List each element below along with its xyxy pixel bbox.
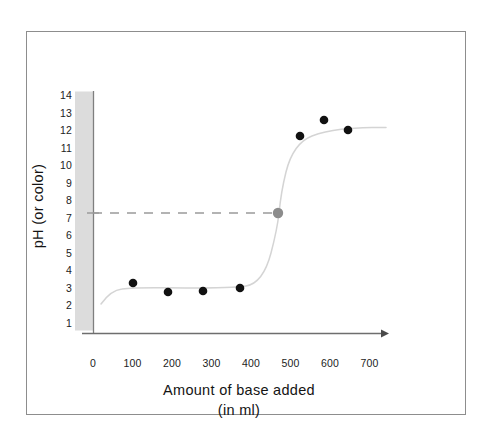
data-point [236,284,245,293]
data-point [199,287,208,296]
y-tick-label: 5 [50,247,72,259]
ph-scale-band [75,92,93,331]
y-axis-title: pH (or color) [30,136,46,276]
data-point [344,126,353,135]
y-tick-label: 11 [50,142,72,154]
titration-curve [101,128,386,305]
y-tick-label: 8 [50,194,72,206]
y-tick-label: 6 [50,229,72,241]
data-point [129,279,138,288]
y-tick-label: 4 [50,264,72,276]
x-tick-label: 600 [313,357,347,369]
x-tick-label: 300 [195,357,229,369]
x-tick-label: 100 [116,357,150,369]
data-point [296,132,305,141]
plot-canvas [0,0,494,443]
y-tick-label: 7 [50,212,72,224]
x-axis-title-line1: Amount of base added [163,382,315,398]
equivalence-point-marker [273,208,283,218]
x-tick-label: 500 [274,357,308,369]
x-axis-title: Amount of base added (in ml) [93,381,385,420]
y-tick-label: 2 [50,299,72,311]
x-axis-arrow-icon [381,330,389,338]
y-tick-label: 12 [50,124,72,136]
y-tick-label: 9 [50,177,72,189]
data-point [164,288,173,297]
y-tick-label: 1 [50,317,72,329]
x-tick-label: 400 [234,357,268,369]
x-tick-label: 200 [155,357,189,369]
x-tick-label: 700 [353,357,387,369]
y-tick-label: 3 [50,282,72,294]
x-tick-label: 0 [76,357,110,369]
titration-chart-figure: 14 13 12 11 10 9 8 7 6 5 4 3 2 1 0 100 2… [0,0,494,443]
y-tick-label: 13 [50,107,72,119]
x-axis-title-line2: (in ml) [93,401,385,421]
data-point [320,116,329,125]
y-tick-label: 14 [50,89,72,101]
y-tick-label: 10 [50,159,72,171]
